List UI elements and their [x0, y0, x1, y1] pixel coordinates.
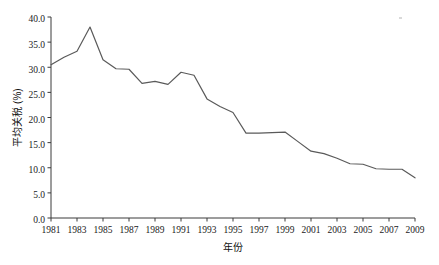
x-axis-tick-label: 2009 — [406, 225, 425, 235]
y-axis-tick-group — [48, 17, 52, 218]
y-axis-tick-label: 30.0 — [28, 65, 45, 75]
x-axis-tick-label: 1997 — [250, 225, 269, 235]
data-series-line — [51, 27, 415, 178]
y-axis-title: 平均关税 (%) — [11, 88, 23, 146]
x-axis-tick-label: 2005 — [354, 225, 373, 235]
x-axis-tick-group — [51, 218, 415, 222]
x-axis-tick-label: 1983 — [68, 225, 87, 235]
y-axis-tick-label: 40.0 — [28, 14, 45, 24]
x-axis-tick-label: 1981 — [42, 225, 61, 235]
y-axis-tick-label: 0.0 — [33, 215, 45, 225]
x-axis-tick-label: 1987 — [120, 225, 139, 235]
x-axis-tick-label: 1989 — [146, 225, 165, 235]
y-axis-tick-label: 15.0 — [28, 140, 45, 150]
y-axis-tick-label: 25.0 — [28, 90, 45, 100]
x-axis-tick-label: 1995 — [224, 225, 243, 235]
y-axis-tick-label: 35.0 — [28, 40, 45, 50]
y-axis-tick-label: 10.0 — [28, 165, 45, 175]
y-axis-tick-labels: 0.05.010.015.020.025.030.035.040.0 — [28, 14, 45, 225]
x-axis-title: 年份 — [223, 241, 243, 253]
y-axis-tick-label: 20.0 — [28, 115, 45, 125]
x-axis-tick-label: 1999 — [276, 225, 295, 235]
x-axis-tick-label: 2003 — [328, 225, 347, 235]
scan-speck — [399, 17, 402, 19]
y-axis-tick-label: 5.0 — [33, 190, 45, 200]
tariff-line-chart: 0.05.010.015.020.025.030.035.040.0 19811… — [0, 0, 439, 265]
x-axis-tick-label: 1993 — [198, 225, 217, 235]
chart-svg: 0.05.010.015.020.025.030.035.040.0 19811… — [0, 0, 439, 265]
x-axis-tick-label: 1985 — [94, 225, 113, 235]
x-axis-tick-label: 2007 — [380, 225, 399, 235]
x-axis-tick-label: 2001 — [302, 225, 321, 235]
x-axis-tick-labels: 1981198319851987198919911993199519971999… — [42, 225, 425, 235]
x-axis-tick-label: 1991 — [172, 225, 191, 235]
